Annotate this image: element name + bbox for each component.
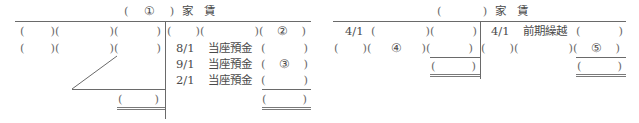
entry-date: 8/1 — [176, 41, 208, 55]
credit-row: 2/1当座預金() — [176, 73, 308, 87]
entry-account: 当座預金 — [208, 57, 256, 71]
amount-blank-5[interactable]: ⑤ — [577, 41, 615, 55]
debit-subtotal-rule — [430, 57, 480, 58]
credit-subtotal-rule — [576, 57, 626, 58]
debit-row: ()(④)() — [334, 41, 473, 55]
credit-total: () — [262, 92, 307, 106]
credit-double-rule — [262, 107, 311, 110]
debit-total: () — [118, 92, 159, 106]
debit-row: ()()() — [20, 41, 161, 55]
entry-account: 前期繰越 — [523, 24, 573, 38]
credit-row: 8/1当座預金() — [176, 41, 308, 55]
entry-date: 9/1 — [176, 57, 208, 71]
account-name: 家 賃 — [495, 4, 528, 18]
debit-row: 4/1()() — [345, 24, 477, 38]
t-account-top-rule — [15, 21, 311, 22]
credit-subtotal-rule — [262, 89, 311, 90]
credit-row: ()()(②) — [167, 24, 306, 38]
entry-date: 4/1 — [491, 24, 523, 38]
debit-total: () — [431, 59, 476, 73]
credit-row: ()()(⑤) — [481, 41, 620, 55]
entry-date: 2/1 — [176, 73, 208, 87]
blank-1[interactable]: ① — [132, 4, 166, 18]
entry-account: 当座預金 — [208, 41, 256, 55]
amount-blank-3[interactable]: ③ — [266, 57, 304, 71]
debit-row: ()()() — [20, 24, 161, 38]
credit-row: 4/1前期繰越() — [491, 24, 623, 38]
debit-subtotal-rule — [72, 89, 165, 90]
account-blank-4[interactable]: ④ — [371, 41, 421, 55]
debit-double-rule — [117, 107, 165, 110]
credit-total: () — [577, 59, 622, 73]
credit-row: 9/1当座預金(③) — [176, 57, 308, 71]
account-title-right: ( ) 家 賃 — [437, 4, 528, 18]
entry-date: 4/1 — [345, 24, 371, 38]
closing-diagonal-line — [70, 55, 170, 90]
account-title-left: ( ① ) 家 賃 — [124, 4, 215, 18]
entry-account: 当座預金 — [208, 73, 256, 87]
account-name: 家 賃 — [182, 4, 215, 18]
amount-blank-2[interactable]: ② — [263, 24, 301, 38]
debit-double-rule — [430, 74, 480, 77]
credit-double-rule — [576, 74, 626, 77]
